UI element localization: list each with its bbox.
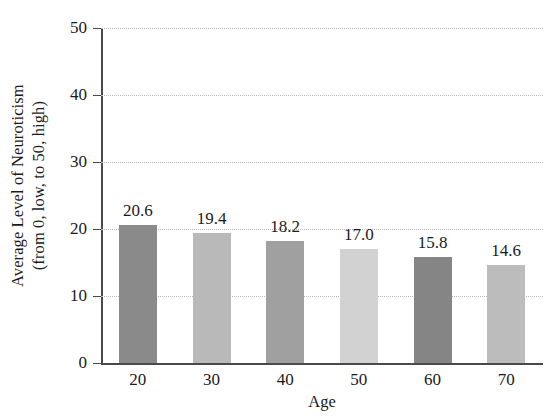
x-tick-label: 20 <box>108 370 168 390</box>
plot-area: 01020304050 20.619.418.217.015.814.6 203… <box>101 28 543 363</box>
x-tick-label: 70 <box>476 370 536 390</box>
bar <box>266 241 304 363</box>
bar <box>193 233 231 363</box>
bar-value-label: 18.2 <box>255 217 315 237</box>
chart-page: Average Level of Neuroticism (from 0, lo… <box>0 0 548 419</box>
y-tick-label: 0 <box>47 353 87 373</box>
gridline <box>101 162 543 163</box>
gridline <box>101 28 543 29</box>
bar-value-label: 17.0 <box>329 225 389 245</box>
x-tick-label: 50 <box>329 370 389 390</box>
y-axis-title-line-1: Average Level of Neuroticism <box>7 85 28 288</box>
x-tick-label: 30 <box>182 370 242 390</box>
x-axis-line <box>101 363 543 365</box>
bar <box>119 225 157 363</box>
y-axis-title: Average Level of Neuroticism (from 0, lo… <box>0 0 56 372</box>
x-axis-title: Age <box>101 392 543 412</box>
bar <box>340 249 378 363</box>
bar <box>414 257 452 363</box>
y-axis-title-line-2: (from 0, low, to 50, high) <box>28 85 49 288</box>
y-tick-mark <box>93 162 101 163</box>
y-tick-label: 40 <box>47 85 87 105</box>
y-tick-label: 30 <box>47 152 87 172</box>
y-tick-label: 50 <box>47 18 87 38</box>
gridline <box>101 95 543 96</box>
bar-value-label: 19.4 <box>182 209 242 229</box>
gridline <box>101 296 543 297</box>
y-tick-mark <box>93 28 101 29</box>
bar-value-label: 15.8 <box>403 233 463 253</box>
bar-value-label: 20.6 <box>108 201 168 221</box>
x-tick-label: 60 <box>403 370 463 390</box>
y-tick-mark <box>93 296 101 297</box>
y-tick-mark <box>93 229 101 230</box>
y-axis-line <box>101 28 103 363</box>
gridline <box>101 229 543 230</box>
y-tick-label: 20 <box>47 219 87 239</box>
y-tick-mark <box>93 95 101 96</box>
bar-value-label: 14.6 <box>476 241 536 261</box>
x-tick-label: 40 <box>255 370 315 390</box>
y-tick-mark <box>93 363 101 364</box>
y-tick-label: 10 <box>47 286 87 306</box>
bar <box>487 265 525 363</box>
